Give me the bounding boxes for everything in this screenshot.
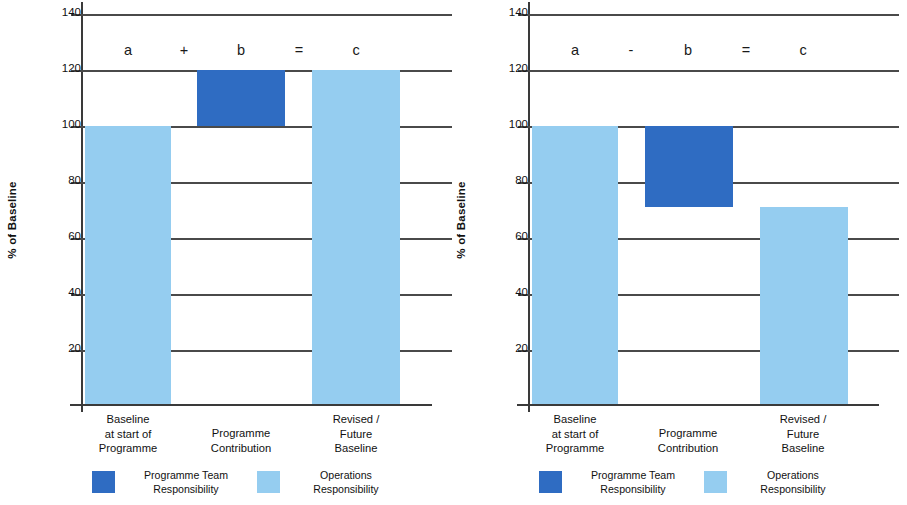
legend-swatch-operations-left [257, 471, 280, 493]
y-axis-title-right: % of Baseline [455, 150, 467, 290]
plot-area-right: 140 120 100 80 60 40 [529, 12, 877, 406]
y-tick-label-20-right: 20 [494, 342, 528, 354]
x-label-contribution-left: Programme Contribution [186, 426, 296, 455]
term-b-left: b [226, 40, 256, 60]
x-label-contribution-line2-left: Contribution [186, 441, 296, 456]
legend-label-programme-team-left: Programme Team Responsibility [126, 468, 246, 496]
x-label-baseline-line3-left: Programme [73, 441, 183, 456]
chart-panel-right: % of Baseline 140 120 100 80 60 [453, 0, 906, 505]
legend-right: Programme Team Responsibility Operations… [529, 468, 877, 502]
bar-a-right [532, 126, 618, 404]
operator-equals-left: = [284, 40, 314, 60]
y-tick-label-40-left: 40 [47, 286, 81, 298]
equation-annotations-right: a - b = c [529, 40, 877, 62]
y-axis-line-left [81, 2, 83, 406]
legend-label-operations-right: Operations Responsibility [738, 468, 848, 496]
bar-c-right [760, 207, 848, 404]
bar-c-left [312, 70, 400, 404]
term-a-right: a [560, 40, 590, 60]
y-tick-label-120-left: 120 [47, 62, 81, 74]
x-label-revised-line1-right: Revised / [748, 412, 858, 427]
x-label-revised-line1-left: Revised / [301, 412, 411, 427]
bar-b-left [197, 70, 285, 126]
y-tick-label-120-right: 120 [494, 62, 528, 74]
x-axis-origin-tick-left [81, 398, 83, 412]
x-axis-line-left [70, 404, 432, 406]
term-c-right: c [788, 40, 818, 60]
y-tick-label-20-left: 20 [47, 342, 81, 354]
x-axis-origin-tick-right [528, 398, 530, 412]
bar-a-left [85, 126, 171, 404]
x-label-baseline-line3-right: Programme [520, 441, 630, 456]
equation-annotations-left: a + b = c [82, 40, 430, 62]
y-axis-title-left: % of Baseline [6, 150, 18, 290]
y-axis-line-right [528, 2, 530, 406]
legend-label-programme-team-right: Programme Team Responsibility [573, 468, 693, 496]
term-a-left: a [113, 40, 143, 60]
legend-swatch-programme-team-left [92, 471, 115, 493]
term-c-left: c [341, 40, 371, 60]
x-axis-line-right [517, 404, 879, 406]
y-tick-label-80-left: 80 [47, 174, 81, 186]
y-tick-label-80-right: 80 [494, 174, 528, 186]
figure-two-waterfall-charts: % of Baseline 140 120 100 80 60 [0, 0, 907, 505]
x-label-contribution-line2-right: Contribution [633, 441, 743, 456]
x-label-baseline-line1-left: Baseline [73, 412, 183, 427]
x-label-revised-line3-right: Baseline [748, 441, 858, 456]
y-tick-label-40-right: 40 [494, 286, 528, 298]
operator-equals-right: = [731, 40, 761, 60]
x-label-baseline-line1-right: Baseline [520, 412, 630, 427]
y-tick-label-100-right: 100 [494, 118, 528, 130]
x-label-baseline-right: Baseline at start of Programme [520, 412, 630, 456]
x-label-baseline-line2-right: at start of [520, 427, 630, 442]
legend-left: Programme Team Responsibility Operations… [82, 468, 430, 502]
x-label-baseline-line2-left: at start of [73, 427, 183, 442]
x-label-revised-line2-left: Future [301, 427, 411, 442]
bar-b-right [645, 126, 733, 207]
x-label-revised-left: Revised / Future Baseline [301, 412, 411, 456]
legend-label-operations-left: Operations Responsibility [291, 468, 401, 496]
y-tick-label-60-left: 60 [47, 230, 81, 242]
gridline-120-right: 120 [529, 70, 877, 72]
x-label-contribution-line1-right: Programme [633, 426, 743, 441]
y-tick-label-140-right: 140 [494, 6, 528, 18]
gridline-140-left: 140 [82, 14, 430, 16]
x-label-revised-right: Revised / Future Baseline [748, 412, 858, 456]
y-tick-label-100-left: 100 [47, 118, 81, 130]
legend-swatch-operations-right [704, 471, 727, 493]
legend-swatch-programme-team-right [539, 471, 562, 493]
plot-area-left: 140 120 100 80 60 40 [82, 12, 430, 406]
x-label-contribution-line1-left: Programme [186, 426, 296, 441]
y-tick-label-140-left: 140 [47, 6, 81, 18]
operator-plus-left: + [169, 40, 199, 60]
x-label-contribution-right: Programme Contribution [633, 426, 743, 455]
x-label-revised-line3-left: Baseline [301, 441, 411, 456]
gridline-140-right: 140 [529, 14, 877, 16]
x-label-revised-line2-right: Future [748, 427, 858, 442]
term-b-right: b [673, 40, 703, 60]
y-tick-label-60-right: 60 [494, 230, 528, 242]
x-label-baseline-left: Baseline at start of Programme [73, 412, 183, 456]
chart-panel-left: % of Baseline 140 120 100 80 60 [0, 0, 453, 505]
operator-minus-right: - [616, 40, 646, 60]
